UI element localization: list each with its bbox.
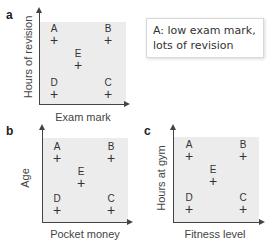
panel-label-c: c: [144, 124, 151, 138]
arrow-right-icon: [259, 219, 265, 225]
arrow-right-icon: [127, 219, 133, 225]
callout-line-1: A: low exam mark,: [153, 23, 257, 38]
point-c-A: A+: [182, 140, 196, 162]
point-b-D: D+: [50, 194, 64, 216]
y-axis-a: [39, 12, 40, 105]
arrow-right-icon: [124, 101, 130, 107]
x-axis-c: [173, 222, 260, 223]
point-a-C: C+: [101, 78, 115, 100]
point-b-B: B+: [104, 142, 118, 164]
callout-note: A: low exam mark, lots of revision: [146, 18, 264, 58]
x-axis-b: [42, 222, 128, 223]
y-axis-b: [42, 129, 43, 223]
point-b-C: C+: [104, 194, 118, 216]
arrow-up-icon: [170, 124, 176, 130]
point-c-B: B+: [236, 140, 250, 162]
callout-line-2: lots of revision: [153, 38, 257, 53]
point-c-C: C+: [236, 193, 250, 215]
point-c-D: D+: [182, 193, 196, 215]
y-axis-label-c: Hours at gym: [155, 133, 167, 223]
y-axis-c: [173, 129, 174, 223]
arrow-up-icon: [36, 7, 42, 13]
point-a-D: D+: [47, 78, 61, 100]
y-axis-label-a: Hours of revision: [22, 7, 34, 107]
point-a-E: E+: [71, 49, 85, 71]
point-b-A: A+: [50, 142, 64, 164]
point-b-E: E+: [74, 167, 88, 189]
panel-label-a: a: [6, 8, 13, 22]
point-a-B: B+: [101, 24, 115, 46]
point-c-E: E+: [206, 165, 220, 187]
x-axis-label-c: Fitness level: [170, 228, 260, 240]
x-axis-label-b: Pocket money: [40, 228, 130, 240]
x-axis-a: [39, 104, 125, 105]
arrow-up-icon: [39, 124, 45, 130]
x-axis-label-a: Exam mark: [40, 111, 126, 123]
y-axis-label-b: Age: [19, 148, 31, 208]
point-a-A: A+: [47, 24, 61, 46]
panel-label-b: b: [6, 124, 13, 138]
